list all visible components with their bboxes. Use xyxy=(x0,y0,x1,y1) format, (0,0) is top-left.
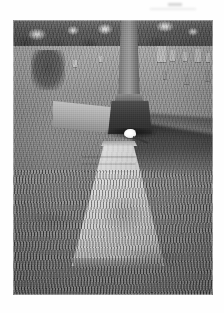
background-headstone xyxy=(170,50,175,61)
scan-artifact-icon xyxy=(168,3,182,6)
background-headstone xyxy=(205,70,210,81)
photograph xyxy=(13,20,213,295)
background-headstone xyxy=(206,53,210,62)
page-canvas: Black-and-white photograph of a cemetery… xyxy=(0,0,224,313)
background-shrub xyxy=(31,50,65,90)
background-headstone xyxy=(195,49,201,62)
background-headstone xyxy=(183,52,187,61)
tree-line xyxy=(13,20,213,46)
slab-head-edge xyxy=(101,141,137,146)
background-headstone xyxy=(99,56,102,62)
column-monument xyxy=(118,20,140,102)
background-headstone xyxy=(73,60,77,67)
background-headstone xyxy=(163,71,167,79)
slab-inscription xyxy=(80,156,136,186)
tree-canopy xyxy=(13,20,213,46)
background-headstone xyxy=(184,74,189,84)
background-headstone xyxy=(157,46,166,62)
scan-streak-icon xyxy=(150,8,196,10)
